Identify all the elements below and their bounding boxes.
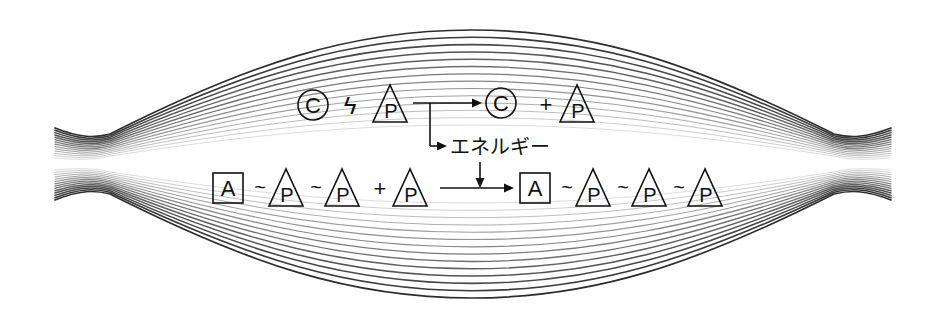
adenosine-label: A <box>528 176 543 201</box>
phosphate-added-triangle-icon: P <box>393 169 427 206</box>
atp-molecule: A~P~P~P <box>520 169 722 206</box>
phosphate-label: P <box>699 184 712 206</box>
plus-sign: + <box>540 92 553 117</box>
muscle-fiber-diagram: C ϟ P C + <box>0 0 944 319</box>
high-energy-bond-tilde: ~ <box>310 176 322 198</box>
creatine-label: C <box>305 93 321 118</box>
muscle-fiber-lines <box>55 30 891 298</box>
phosphate-label: P <box>280 184 293 206</box>
plus-sign-2: + <box>374 176 387 201</box>
high-energy-bond-tilde: ~ <box>254 176 266 198</box>
adp-molecule: A~P~P <box>213 169 359 206</box>
phosphate-product-label: P <box>571 100 584 122</box>
phosphate-added-label: P <box>404 184 417 206</box>
adenosine-label: A <box>221 176 236 201</box>
synthesis-arrow-icon <box>440 184 514 193</box>
adenosine-square-icon: A <box>520 173 550 203</box>
phosphate-label: P <box>587 184 600 206</box>
reaction-atp-synthesis: A~P~P + P A~P~P~P <box>213 169 722 206</box>
phosphate-triangle-icon: P <box>325 169 359 206</box>
phosphate-triangle-icon: P <box>632 169 666 206</box>
high-energy-bond-tilde: ~ <box>617 176 629 198</box>
adenosine-square-icon: A <box>213 173 243 203</box>
phosphate-label: P <box>336 184 349 206</box>
phosphate-label: P <box>643 184 656 206</box>
phosphate-label: P <box>384 100 397 122</box>
creatine-product-label: C <box>493 91 509 116</box>
high-energy-bond-tilde: ~ <box>673 176 685 198</box>
energy-down-arrow-icon <box>476 162 485 188</box>
phosphate-product-triangle-icon: P <box>560 85 594 122</box>
phosphate-triangle-icon: P <box>269 169 303 206</box>
high-energy-bond-tilde: ~ <box>561 176 573 198</box>
phosphate-triangle-icon: P <box>688 169 722 206</box>
high-energy-bond-icon: ϟ <box>344 92 357 119</box>
energy-label: エネルギー <box>450 135 550 159</box>
